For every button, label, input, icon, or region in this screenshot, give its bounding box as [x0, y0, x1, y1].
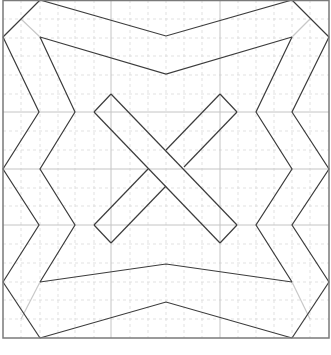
diagonal-bar-tr-bl-lower-b	[111, 186, 166, 243]
right-zigzag-inner	[256, 37, 292, 282]
diagonal-bar-tl-br-lower-edge	[94, 112, 220, 243]
bottom-left-corner-edge	[3, 282, 40, 338]
bottom-right-corner-edge	[292, 282, 329, 338]
bottom-diamond-tip-right	[220, 225, 237, 243]
diagonal-bar-tr-bl-lower-a	[94, 169, 148, 225]
right-zigzag-outer	[292, 37, 329, 282]
left-zigzag-inner	[40, 37, 75, 282]
diagonal-bar-tr-bl-upper-a	[166, 94, 220, 150]
top-diamond-tip	[94, 94, 111, 112]
top-left-faint	[21, 19, 40, 37]
diagonal-bar-tr-bl-upper-b	[184, 112, 237, 167]
bottom-right-faint	[292, 282, 310, 319]
pattern-diagram	[0, 0, 331, 355]
left-zigzag-outer	[3, 37, 39, 282]
bottom-diamond-tip-left	[94, 225, 111, 243]
top-diamond-tip-right	[220, 94, 237, 112]
top-right-faint	[292, 19, 310, 37]
